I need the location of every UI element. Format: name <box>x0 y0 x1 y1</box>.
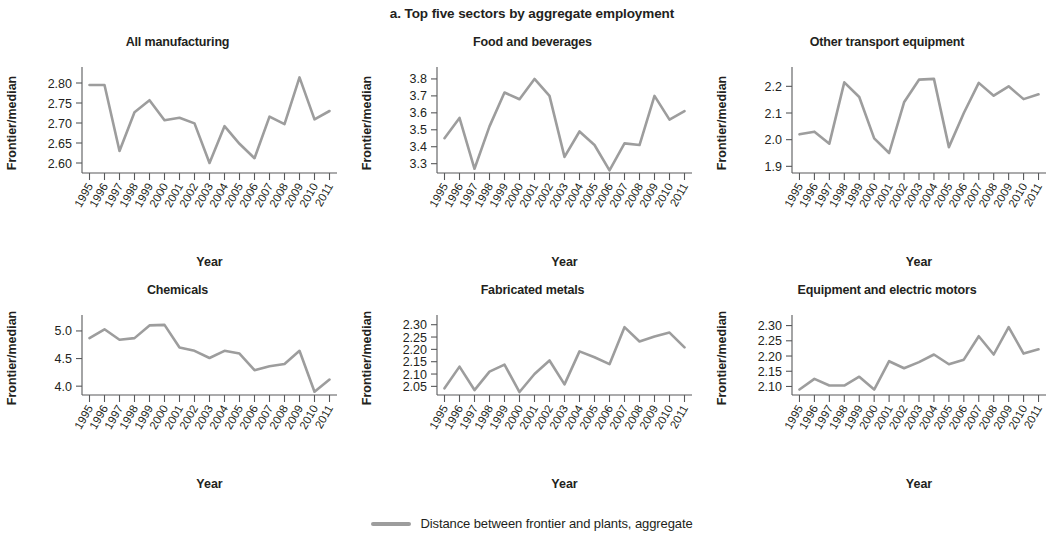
x-axis-label: Year <box>196 477 223 491</box>
y-tick-label: 2.2 <box>765 80 782 94</box>
y-tick-label: 2.0 <box>765 133 782 147</box>
y-tick-label: 2.15 <box>403 355 427 369</box>
series-line <box>799 79 1038 153</box>
y-tick-label: 3.6 <box>410 106 427 120</box>
y-tick-label: 2.60 <box>48 157 72 171</box>
y-tick-label: 5.0 <box>55 324 72 338</box>
legend-label: Distance between frontier and plants, ag… <box>420 516 692 531</box>
panel-food-and-beverages: Food and beverages 3.33.43.53.63.73.8199… <box>355 30 710 278</box>
y-tick-label: 4.0 <box>55 380 72 394</box>
y-axis-label: Frontier/median <box>360 311 374 405</box>
chart-svg: 2.602.652.702.752.8019951996199719981999… <box>0 30 355 278</box>
series-line <box>90 77 330 163</box>
x-axis-label: Year <box>196 255 223 269</box>
y-tick-label: 2.25 <box>758 334 782 348</box>
y-tick-label: 2.20 <box>403 343 427 357</box>
y-tick-label: 3.4 <box>410 140 427 154</box>
y-tick-label: 1.9 <box>765 160 782 174</box>
y-tick-label: 2.1 <box>765 107 782 121</box>
y-tick-label: 3.5 <box>410 123 427 137</box>
y-tick-label: 2.25 <box>403 331 427 345</box>
x-axis-label: Year <box>551 255 578 269</box>
panel-fabricated-metals: Fabricated metals 2.052.102.152.202.252.… <box>355 278 710 500</box>
y-tick-label: 2.65 <box>48 137 72 151</box>
chart-legend: Distance between frontier and plants, ag… <box>0 516 1064 531</box>
series-line <box>799 327 1038 389</box>
y-axis-label: Frontier/median <box>360 76 374 170</box>
legend-line-swatch <box>371 522 411 526</box>
chart-svg: 4.04.55.01995199619971998199920002001200… <box>0 278 355 500</box>
y-tick-label: 2.30 <box>403 318 427 332</box>
chart-svg: 2.102.152.202.252.3019951996199719981999… <box>710 278 1064 500</box>
y-tick-label: 2.70 <box>48 117 72 131</box>
figure-panel-a: a. Top five sectors by aggregate employm… <box>0 0 1064 559</box>
y-tick-label: 3.8 <box>410 72 427 86</box>
panel-equipment-and-electric-motors: Equipment and electric motors 2.102.152.… <box>710 278 1064 500</box>
y-tick-label: 2.75 <box>48 97 72 111</box>
figure-title: a. Top five sectors by aggregate employm… <box>0 6 1064 21</box>
y-tick-label: 2.30 <box>758 319 782 333</box>
y-axis-label: Frontier/median <box>5 311 19 405</box>
series-line <box>445 79 685 171</box>
y-tick-label: 2.05 <box>403 380 427 394</box>
y-tick-label: 3.3 <box>410 157 427 171</box>
x-axis-label: Year <box>906 255 933 269</box>
y-tick-label: 3.7 <box>410 89 427 103</box>
panel-other-transport-equipment: Other transport equipment 1.92.02.12.219… <box>710 30 1064 278</box>
y-tick-label: 2.80 <box>48 77 72 91</box>
series-line <box>445 327 685 392</box>
chart-svg: 1.92.02.12.21995199619971998199920002001… <box>710 30 1064 278</box>
y-axis-label: Frontier/median <box>715 311 729 405</box>
panel-chemicals: Chemicals 4.04.55.0199519961997199819992… <box>0 278 355 500</box>
panel-grid: All manufacturing 2.602.652.702.752.8019… <box>0 30 1064 500</box>
y-tick-label: 2.20 <box>758 350 782 364</box>
y-tick-label: 2.10 <box>758 380 782 394</box>
y-tick-label: 2.10 <box>403 368 427 382</box>
panel-all-manufacturing: All manufacturing 2.602.652.702.752.8019… <box>0 30 355 278</box>
y-axis-label: Frontier/median <box>715 76 729 170</box>
series-line <box>90 325 330 392</box>
y-axis-label: Frontier/median <box>5 76 19 170</box>
chart-svg: 3.33.43.53.63.73.81995199619971998199920… <box>355 30 710 278</box>
y-tick-label: 2.15 <box>758 365 782 379</box>
x-axis-label: Year <box>551 477 578 491</box>
x-axis-label: Year <box>906 477 933 491</box>
chart-svg: 2.052.102.152.202.252.301995199619971998… <box>355 278 710 500</box>
y-tick-label: 4.5 <box>55 352 72 366</box>
